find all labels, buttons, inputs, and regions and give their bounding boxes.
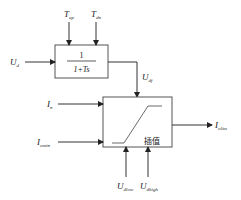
filter-numerator: 1 (80, 51, 84, 60)
ud-label: Ud (10, 57, 20, 68)
block-diagram: 1 1+Ts Tup Tdn Ud Udf 插值 In Iomin Iolim … (0, 0, 241, 200)
udf-label: Udf (142, 72, 153, 83)
iomin-label: Iomin (36, 137, 51, 148)
udlow-label: Udlow (117, 181, 134, 192)
tup-label: Tup (64, 9, 75, 20)
filter-denominator: 1+Ts (73, 65, 89, 74)
tdn-label: Tdn (91, 9, 102, 20)
iolim-label: Iolim (214, 120, 227, 131)
in-label: In (46, 99, 53, 110)
udf-connection (108, 62, 137, 97)
udhigh-label: Udhigh (140, 181, 158, 192)
interp-label: 插值 (144, 136, 160, 146)
